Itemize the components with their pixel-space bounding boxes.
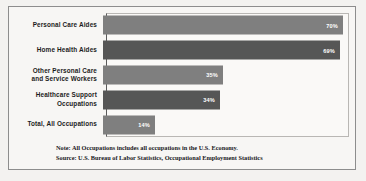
bar-track: 69% bbox=[103, 38, 349, 63]
category-label-line1: Personal Care Aides bbox=[33, 21, 97, 28]
bar-row: Home Health Aides 69% bbox=[9, 38, 349, 63]
category-label-line1: Home Health Aides bbox=[37, 46, 97, 53]
category-label-line2: Occupations bbox=[57, 100, 97, 107]
category-label: Home Health Aides bbox=[9, 46, 103, 54]
chart-figure: Personal Care Aides 70% Home Health Aide… bbox=[8, 6, 356, 170]
bar-track: 14% bbox=[103, 112, 349, 137]
bar-value-label: 69% bbox=[323, 47, 340, 53]
bar-row: Personal Care Aides 70% bbox=[9, 13, 349, 38]
bar-row: Other Personal Care and Service Workers … bbox=[9, 63, 349, 88]
bar-track: 35% bbox=[103, 63, 349, 88]
bar-rows: Personal Care Aides 70% Home Health Aide… bbox=[9, 13, 349, 137]
bar-value-label: 35% bbox=[206, 72, 223, 78]
bar-value-label: 14% bbox=[138, 122, 155, 128]
bar: 35% bbox=[103, 65, 223, 84]
category-label-line2: and Service Workers bbox=[31, 75, 97, 82]
bar: 69% bbox=[103, 41, 340, 60]
category-label-line1: Other Personal Care bbox=[33, 67, 97, 74]
category-label: Personal Care Aides bbox=[9, 21, 103, 29]
bar: 34% bbox=[103, 90, 220, 109]
bar-row: Total, All Occupations 14% bbox=[9, 112, 349, 137]
bar-track: 34% bbox=[103, 87, 349, 112]
category-label-line1: Healthcare Support bbox=[36, 91, 97, 98]
footnote-source: Source: U.S. Bureau of Labor Statistics,… bbox=[56, 153, 346, 163]
bar: 70% bbox=[103, 16, 343, 35]
category-label: Healthcare Support Occupations bbox=[9, 91, 103, 108]
bar-value-label: 34% bbox=[203, 97, 220, 103]
bar-value-label: 70% bbox=[326, 22, 343, 28]
category-label: Other Personal Care and Service Workers bbox=[9, 67, 103, 84]
footnote-note: Note: All Occupations includes all occup… bbox=[56, 143, 346, 153]
category-label-line1: Total, All Occupations bbox=[27, 120, 97, 127]
category-label: Total, All Occupations bbox=[9, 120, 103, 128]
bar: 14% bbox=[103, 115, 155, 134]
bar-track: 70% bbox=[103, 13, 349, 38]
bar-row: Healthcare Support Occupations 34% bbox=[9, 87, 349, 112]
chart-footnotes: Note: All Occupations includes all occup… bbox=[56, 143, 346, 163]
